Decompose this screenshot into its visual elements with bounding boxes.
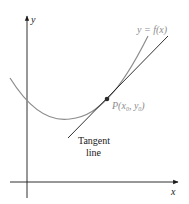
tangent-label-line2: line xyxy=(86,147,102,158)
tangent-label-line1: Tangent xyxy=(78,135,110,146)
tangent-line-diagram: y x y = f(x) P(x0, y0) Tangent line xyxy=(0,0,189,204)
curve-label: y = f(x) xyxy=(136,24,168,36)
point-p-marker xyxy=(105,97,110,102)
point-p-label: P(x0, y0) xyxy=(111,100,145,112)
x-axis-label: x xyxy=(170,186,176,197)
tangent-line xyxy=(68,36,168,138)
y-axis-label: y xyxy=(30,14,36,25)
